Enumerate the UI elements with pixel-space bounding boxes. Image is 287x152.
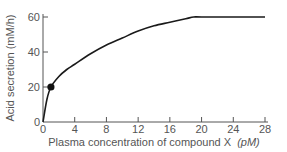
x-tick-label: 12 xyxy=(132,123,144,135)
x-tick-label: 24 xyxy=(227,123,239,135)
x-tick-label: 8 xyxy=(103,123,109,135)
y-tick-label: 40 xyxy=(28,46,40,58)
x-tick-label: 28 xyxy=(259,123,271,135)
x-tick-label: 4 xyxy=(72,123,78,135)
x-axis-label: Plasma concentration of compound X xyxy=(48,136,231,148)
axes xyxy=(43,14,268,122)
ticks: 04812162024280204060 xyxy=(28,11,271,135)
x-tick-label: 16 xyxy=(164,123,176,135)
x-tick-label: 20 xyxy=(195,123,207,135)
y-tick-label: 0 xyxy=(34,116,40,128)
data-point-marker xyxy=(47,83,54,90)
y-tick-label: 20 xyxy=(28,81,40,93)
x-axis-title: Plasma concentration of compound X (pM) xyxy=(48,136,260,148)
y-tick-label: 60 xyxy=(28,11,40,23)
y-axis-title: Acid secretion (mM/h) xyxy=(4,15,16,122)
x-axis-unit: (pM) xyxy=(237,136,260,148)
chart: 04812162024280204060 Plasma concentratio… xyxy=(0,0,287,152)
x-tick-label: 0 xyxy=(40,123,46,135)
data-line xyxy=(43,17,265,122)
